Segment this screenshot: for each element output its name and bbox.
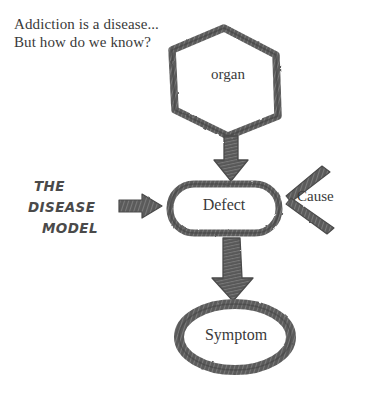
symptom-node-label: Symptom — [186, 326, 286, 345]
title-line-2: But how do we know? — [14, 34, 159, 52]
arrow-defect-to-symptom — [212, 238, 253, 301]
organ-node-label: organ — [186, 66, 270, 84]
title-line-1: Addiction is a disease... — [14, 16, 159, 32]
arrow-caption-to-defect — [119, 194, 162, 218]
cause-annotation-label: Cause — [297, 188, 334, 206]
defect-node-label: Defect — [178, 196, 270, 215]
caption-line-2: DISEASE — [28, 197, 124, 218]
diagram-title: Addiction is a disease...But how do we k… — [14, 16, 159, 51]
diagram-canvas: Addiction is a disease...But how do we k… — [0, 0, 365, 398]
disease-model-caption: THEDISEASEMODEL — [28, 176, 124, 239]
caption-line-1: THE — [34, 176, 124, 197]
arrow-organ-to-defect — [214, 136, 248, 181]
caption-line-3: MODEL — [42, 218, 124, 239]
